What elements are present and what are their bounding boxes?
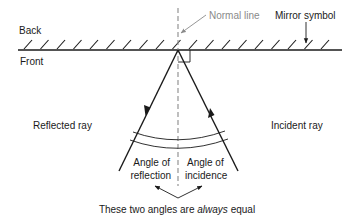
caption: These two angles are always equal [99, 204, 255, 215]
hatch-mark [173, 40, 181, 49]
hatch-mark [123, 40, 131, 49]
hatch-mark [107, 40, 115, 49]
hatch-mark [24, 40, 32, 49]
angle-of-reflection-label-line1: Angle of [133, 157, 170, 168]
hatch-mark [140, 40, 148, 49]
hatch-mark [57, 40, 65, 49]
angle-arc-inner [130, 139, 228, 148]
normal-line-pointer [181, 15, 206, 33]
mirror-hatching [24, 40, 329, 49]
hatch-mark [321, 40, 329, 49]
caption-suffix: equal [228, 204, 255, 215]
hatch-mark [189, 40, 197, 49]
angle-of-reflection-label-line2: reflection [130, 170, 171, 181]
hatch-mark [90, 40, 98, 49]
reflection-diagram: Back Front Normal line Mirror symbol Ref… [0, 0, 360, 220]
front-label: Front [20, 56, 44, 67]
hatch-mark [74, 40, 82, 49]
hatch-mark [255, 40, 263, 49]
hatch-mark [222, 40, 230, 49]
angle-of-incidence-label-line2: incidence [185, 170, 228, 181]
angle-of-incidence-label-line1: Angle of [187, 157, 224, 168]
mirror-symbol-label: Mirror symbol [275, 10, 336, 21]
hatch-mark [156, 40, 164, 49]
caption-emphasis: always [197, 204, 228, 215]
hatch-mark [288, 40, 296, 49]
caption-prefix: These two angles are [99, 204, 197, 215]
hatch-mark [239, 40, 247, 49]
back-label: Back [19, 25, 42, 36]
hatch-mark [41, 40, 49, 49]
incident-ray [178, 50, 238, 171]
hatch-mark [272, 40, 280, 49]
normal-line-label: Normal line [209, 10, 260, 21]
angle-arc-outer [133, 131, 225, 140]
hatch-mark [206, 40, 214, 49]
right-angle-marker [178, 50, 190, 62]
reflected-ray-label: Reflected ray [33, 120, 92, 131]
caption-pointer-left [155, 186, 178, 198]
incident-ray-label: Incident ray [271, 120, 323, 131]
caption-pointer-right [178, 186, 202, 198]
